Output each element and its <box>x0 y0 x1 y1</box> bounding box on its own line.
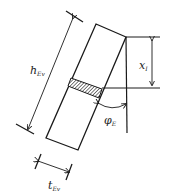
height-extension-bottom <box>16 124 34 134</box>
angle-arc <box>98 103 126 108</box>
height-extension-top <box>66 11 83 22</box>
thickness-label: tEv <box>48 179 61 192</box>
hatched-joint <box>68 78 102 98</box>
diagram: xI φE hEv tEv <box>0 0 175 194</box>
thickness-dimension-arrow <box>38 161 69 172</box>
height-label: hEv <box>30 64 45 77</box>
angle-label: φE <box>104 114 117 127</box>
depth-label: xI <box>139 59 148 72</box>
vertical-reference-line <box>126 37 127 133</box>
